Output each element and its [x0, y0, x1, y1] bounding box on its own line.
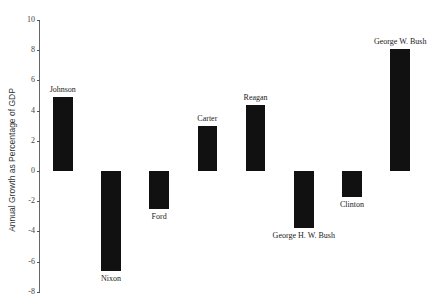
y-tick-label: 10	[15, 15, 35, 24]
bar	[198, 126, 218, 171]
y-axis-line	[39, 20, 40, 292]
y-tick-mark	[37, 292, 40, 293]
y-tick-label: 0	[15, 166, 35, 175]
y-tick-label: 6	[15, 75, 35, 84]
bar	[149, 171, 169, 209]
bar	[53, 97, 73, 171]
bar-label: Carter	[197, 114, 217, 123]
bar	[294, 171, 314, 228]
y-tick-label: -2	[15, 196, 35, 205]
bar	[390, 49, 410, 171]
bar-label: Ford	[152, 212, 167, 221]
y-tick-label: 8	[15, 45, 35, 54]
y-tick-label: -8	[15, 287, 35, 296]
bar-label: George H. W. Bush	[273, 231, 335, 240]
bar	[342, 171, 362, 197]
y-tick-mark	[37, 231, 40, 232]
y-tick-label: -6	[15, 257, 35, 266]
bar-label: Reagan	[244, 93, 268, 102]
y-tick-label: 2	[15, 136, 35, 145]
bar-label: George W. Bush	[374, 37, 427, 46]
bar-label: Johnson	[50, 85, 76, 94]
y-tick-label: 4	[15, 106, 35, 115]
y-tick-mark	[37, 171, 40, 172]
bar	[246, 105, 266, 171]
y-tick-label: -4	[15, 226, 35, 235]
y-tick-mark	[37, 201, 40, 202]
bar	[101, 171, 121, 271]
y-tick-mark	[37, 141, 40, 142]
y-tick-mark	[37, 80, 40, 81]
y-tick-mark	[37, 111, 40, 112]
bar-label: Clinton	[340, 200, 364, 209]
bar-label: Nixon	[101, 274, 121, 283]
y-tick-mark	[37, 50, 40, 51]
bar-chart: Annual Growth as Percentage of GDP 10864…	[0, 0, 438, 302]
y-tick-mark	[37, 20, 40, 21]
y-tick-mark	[37, 262, 40, 263]
